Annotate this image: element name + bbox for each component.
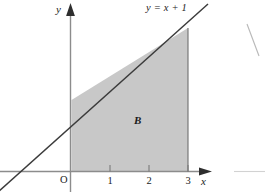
y-axis-label: y	[56, 4, 61, 15]
y-axis-arrowhead	[66, 3, 75, 16]
shaded-region-b	[72, 28, 189, 172]
x-tick-label-2: 2	[143, 175, 155, 186]
region-label-b: B	[134, 115, 141, 126]
graph-canvas	[0, 0, 265, 192]
x-tick-label-1: 1	[104, 175, 116, 186]
graph-figure: y x O y = x + 1 B 1 2 3	[0, 0, 265, 192]
x-axis-label: x	[201, 176, 206, 187]
line-equation-label: y = x + 1	[146, 3, 187, 14]
scan-artifact-diagonal	[247, 24, 259, 56]
origin-label: O	[60, 175, 68, 186]
x-tick-label-3: 3	[182, 175, 194, 186]
